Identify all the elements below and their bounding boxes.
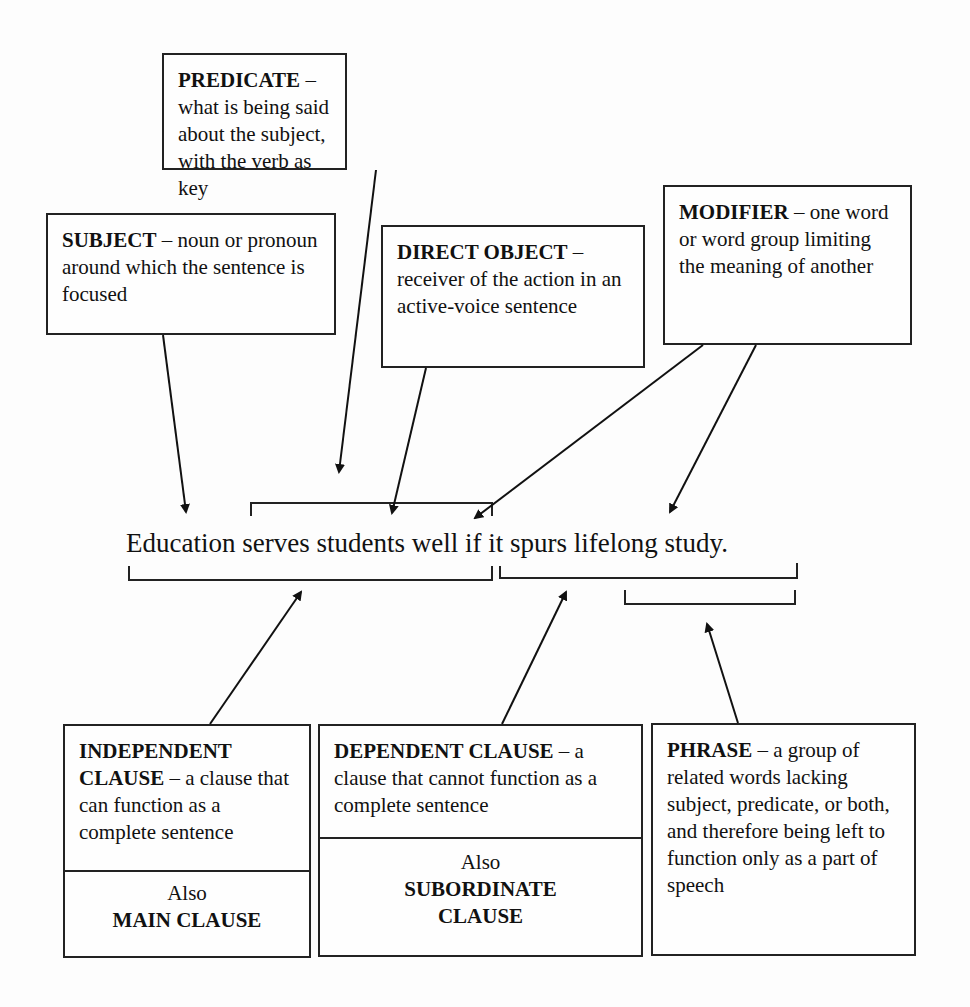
- subordinate-clause-term: SUBORDINATE CLAUSE: [381, 876, 581, 930]
- modifier-box: MODIFIER – one word or word group limiti…: [663, 185, 912, 345]
- direct-object-box: DIRECT OBJECT – receiver of the action i…: [381, 225, 645, 368]
- subject-arrow: [163, 335, 186, 512]
- dependent-clause-box: DEPENDENT CLAUSE – a clause that cannot …: [318, 724, 643, 839]
- phrase-bracket: [625, 590, 795, 604]
- main-clause-term: MAIN CLAUSE: [65, 907, 309, 934]
- independent-clause-arrow: [210, 592, 301, 724]
- direct-object-arrow: [392, 368, 426, 513]
- phrase-arrow: [707, 624, 738, 723]
- phrase-box: PHRASE – a group of related words lackin…: [651, 723, 916, 956]
- dependent-clause-bracket: [500, 563, 797, 578]
- predicate-box: PREDICATE – what is being said about the…: [162, 53, 347, 170]
- independent-clause-box: INDEPENDENT CLAUSE – a clause that can f…: [63, 724, 311, 872]
- main-clause-box: Also MAIN CLAUSE: [63, 870, 311, 958]
- phrase-term: PHRASE: [667, 738, 752, 762]
- independent-clause-bracket: [129, 566, 492, 580]
- also-label: Also: [65, 880, 309, 907]
- also-label: Also: [320, 849, 641, 876]
- predicate-term: PREDICATE: [178, 68, 300, 92]
- modifier-arrow-lifelong: [670, 345, 756, 512]
- dependent-clause-arrow: [502, 592, 566, 724]
- modifier-arrow-well: [475, 345, 703, 518]
- predicate-arrow: [339, 170, 376, 472]
- modifier-term: MODIFIER: [679, 200, 789, 224]
- subordinate-clause-box: Also SUBORDINATE CLAUSE: [318, 837, 643, 957]
- dependent-clause-term: DEPENDENT CLAUSE: [334, 739, 554, 763]
- subject-term: SUBJECT: [62, 228, 157, 252]
- predicate-bracket: [251, 503, 492, 516]
- subject-box: SUBJECT – noun or pronoun around which t…: [46, 213, 336, 335]
- direct-object-term: DIRECT OBJECT: [397, 240, 568, 264]
- example-sentence: Education serves students well if it spu…: [126, 527, 728, 559]
